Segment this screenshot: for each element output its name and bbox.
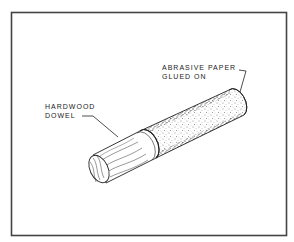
figure-frame <box>12 13 287 236</box>
dowel-label-line1: HARDWOOD <box>45 102 95 111</box>
abrasive-label-line2: GLUED ON <box>162 72 236 81</box>
abrasive-leader-line <box>239 70 246 92</box>
diagram-figure <box>0 0 294 242</box>
hardwood-dowel-label: HARDWOOD DOWEL <box>45 102 95 120</box>
dowel-label-line2: DOWEL <box>45 111 95 120</box>
hardwood-dowel-section <box>85 130 159 186</box>
abrasive-paper-label: ABRASIVE PAPER GLUED ON <box>162 63 236 81</box>
abrasive-label-line1: ABRASIVE PAPER <box>162 63 236 72</box>
